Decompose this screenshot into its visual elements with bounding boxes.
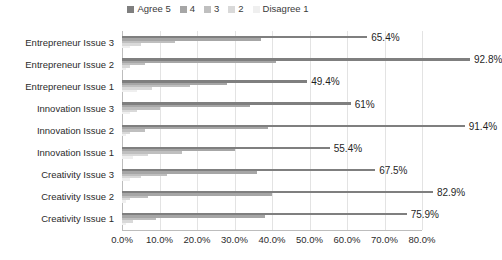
bar-slot [122,223,422,225]
category-label: Entrepreneur Issue 1 [0,75,118,97]
x-tick-label: 20.0% [184,234,211,246]
legend-item-3[interactable]: 3 [204,3,219,15]
x-tick-label: 10.0% [146,234,173,246]
bar-group [122,142,422,164]
bar-group [122,97,422,119]
bar-slot [122,112,422,114]
category-label: Creativity Issue 1 [0,208,118,230]
data-label: 82.9% [437,187,465,198]
category-label: Innovation Issue 2 [0,119,118,141]
bar-slot [122,90,422,92]
data-label: 75.9% [411,209,439,220]
x-tick-label: 0.0% [111,234,133,246]
legend-swatch-icon [228,6,235,13]
bar[interactable] [122,90,137,92]
legend-swatch-icon [253,6,260,13]
bar-slot [122,178,422,180]
category-label: Entrepreneur Issue 2 [0,53,118,75]
x-tick-label: 80.0% [409,234,436,246]
bar[interactable] [122,112,130,114]
legend-label: Disagree 1 [263,3,309,15]
bar-slot [122,134,422,136]
legend-item-2[interactable]: 4 [180,3,195,15]
bar-slot [122,46,422,48]
category-label: Innovation Issue 1 [0,142,118,164]
legend-label: 2 [238,3,243,15]
legend-item-5[interactable]: Disagree 1 [253,3,309,15]
legend-swatch-icon [180,6,187,13]
data-label: 65.4% [371,32,399,43]
category-label: Creativity Issue 2 [0,186,118,208]
bar-group [122,208,422,230]
bar[interactable] [122,46,130,48]
bar-groups [122,31,422,230]
bar-slot [122,156,422,158]
data-label: 92.8% [474,54,502,65]
category-label: Innovation Issue 3 [0,97,118,119]
bar-slot [122,200,422,202]
data-label: 91.4% [469,120,497,131]
bar-slot [122,68,422,70]
category-label: Entrepreneur Issue 3 [0,31,118,53]
bar-group [122,119,422,141]
bar-group [122,186,422,208]
bar[interactable] [122,68,126,70]
x-tick-label: 40.0% [259,234,286,246]
legend-label: 3 [214,3,219,15]
gridline-80 [422,31,423,230]
chart-legend: Agree 5432Disagree 1 [0,3,436,15]
bar[interactable] [122,200,126,202]
data-label: 55.4% [334,142,362,153]
category-axis-labels: Entrepreneur Issue 3Entrepreneur Issue 2… [0,31,118,230]
bar[interactable] [122,156,133,158]
data-label: 61% [355,98,375,109]
bar-group [122,53,422,75]
bar[interactable] [122,223,126,225]
bar-group [122,164,422,186]
data-label: 49.4% [311,76,339,87]
x-tick-label: 70.0% [371,234,398,246]
legend-swatch-icon [204,6,211,13]
legend-swatch-icon [127,6,134,13]
legend-label: 4 [190,3,195,15]
legend-item-4[interactable]: 2 [228,3,243,15]
plot-area: 65.4%92.8%49.4%61%91.4%55.4%67.5%82.9%75… [122,31,422,230]
bar[interactable] [122,134,126,136]
x-tick-label: 50.0% [296,234,323,246]
x-tick-label: 30.0% [221,234,248,246]
category-label: Creativity Issue 3 [0,164,118,186]
x-axis-line [122,230,422,231]
x-tick-label: 60.0% [334,234,361,246]
bar-group [122,75,422,97]
data-label: 67.5% [379,164,407,175]
legend-label: Agree 5 [137,3,170,15]
legend-item-1[interactable]: Agree 5 [127,3,170,15]
x-axis-tick-labels: 0.0%10.0%20.0%30.0%40.0%50.0%60.0%70.0%8… [0,234,436,250]
bar[interactable] [122,178,130,180]
